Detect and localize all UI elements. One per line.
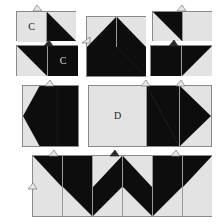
unit-top-left: C bbox=[16, 11, 76, 41]
patch-dark-plain bbox=[153, 156, 183, 187]
patch-hst-upper-right bbox=[153, 12, 183, 41]
patch-hst-upper-right bbox=[123, 187, 153, 216]
triangle-lower-right-icon bbox=[93, 156, 122, 187]
fold-line-icon bbox=[147, 86, 179, 146]
unit-bottom-strip bbox=[32, 155, 212, 217]
triangle-upper-right-icon bbox=[123, 187, 152, 216]
patch-hst-upper-left bbox=[183, 156, 212, 187]
triangle-upper-right-icon bbox=[33, 156, 62, 187]
patch-hst-upper-left bbox=[153, 187, 183, 216]
patch-dark-plain bbox=[151, 46, 182, 76]
patch-light-plain bbox=[183, 187, 212, 216]
fold-line-icon bbox=[117, 47, 146, 76]
patch-d-light: D bbox=[89, 86, 147, 146]
unit-mid-left bbox=[22, 85, 79, 147]
unit-top-right bbox=[152, 11, 212, 41]
triangle-lower-left-icon bbox=[47, 12, 76, 41]
patch-hst-lower-left bbox=[123, 156, 153, 187]
patch-hst-upper-left bbox=[182, 46, 212, 76]
triangle-lower-left-icon bbox=[123, 156, 152, 187]
patch-light-plain bbox=[183, 12, 212, 41]
patch-hst-lower-left bbox=[47, 12, 76, 41]
triangle-upper-right-icon bbox=[63, 187, 92, 216]
patch-dark-lower-left bbox=[87, 47, 117, 76]
triangle-arrow-left-icon bbox=[180, 86, 211, 146]
triangle-upper-left-icon bbox=[183, 156, 212, 187]
diagram-canvas: C bbox=[0, 0, 218, 224]
label-c-light: C bbox=[17, 12, 46, 42]
patch-dark-plain bbox=[63, 156, 93, 187]
triangle-upper-left-icon bbox=[93, 187, 122, 216]
patch-hst-upper-right bbox=[17, 46, 48, 76]
patch-dark-plain bbox=[147, 86, 180, 146]
label-c-dark: C bbox=[48, 46, 78, 76]
unit-second-left: C bbox=[16, 45, 78, 76]
triangle-upper-left-icon bbox=[153, 187, 182, 216]
patch-hst-lower-left bbox=[117, 17, 146, 47]
patch-light-plain bbox=[33, 187, 63, 216]
triangle-upper-left-icon bbox=[182, 46, 212, 76]
patch-hst-upper-left bbox=[93, 187, 123, 216]
patch-hst-lower-right bbox=[87, 17, 117, 47]
patch-c-light: C bbox=[17, 12, 47, 42]
patch-c-dark: C bbox=[48, 46, 78, 76]
patch-arrow-left bbox=[23, 86, 78, 146]
triangle-upper-right-icon bbox=[153, 12, 182, 41]
unit-top-middle bbox=[86, 16, 146, 77]
unit-mid-right: D bbox=[88, 85, 212, 147]
triangle-arrow-left-icon bbox=[23, 86, 78, 146]
patch-arrow-left bbox=[180, 86, 211, 146]
triangle-lower-left-icon bbox=[117, 17, 146, 47]
label-d-light: D bbox=[89, 86, 146, 146]
triangle-lower-right-icon bbox=[87, 17, 116, 47]
patch-hst-upper-right bbox=[33, 156, 63, 187]
triangle-upper-right-icon bbox=[17, 46, 47, 76]
patch-hst-lower-right bbox=[93, 156, 123, 187]
unit-second-right bbox=[150, 45, 212, 76]
patch-dark-lower-right bbox=[117, 47, 146, 76]
patch-hst-upper-right bbox=[63, 187, 93, 216]
